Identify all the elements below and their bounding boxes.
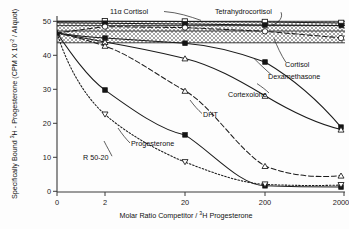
- label-r-50-20: R 50-20: [83, 153, 109, 162]
- marker-filled-square: [263, 23, 268, 28]
- x-tick-200: 200: [259, 198, 271, 207]
- y-tick-labels: 50 40 30 20 10 0: [43, 17, 51, 196]
- x-tick-labels: 0 2 20 200 2000: [55, 198, 349, 207]
- series-r-50-20: [57, 33, 344, 188]
- y-tick-0: 0: [47, 187, 51, 196]
- y-tick-30: 30: [43, 85, 51, 94]
- series-progesterone: [57, 33, 343, 189]
- y-axis-title-b: H - Progesterone (CPM X 10: [10, 44, 19, 136]
- svg-text:Specifically Bound 3H - Proges: Specifically Bound 3H - Progesterone (CP…: [9, 9, 19, 199]
- marker-open-triangle: [182, 88, 188, 93]
- marker-filled-square: [339, 23, 344, 28]
- x-axis-title: Molar Ratio Competitor / 3H Progesterone: [119, 210, 252, 220]
- marker-filled-square: [183, 133, 188, 138]
- y-tick-20: 20: [43, 119, 51, 128]
- x-tick-20: 20: [181, 198, 189, 207]
- marker-open-down-triangle: [182, 160, 188, 165]
- label-dht: DHT: [203, 110, 218, 119]
- svg-text:Molar Ratio Competitor / 3H Pr: Molar Ratio Competitor / 3H Progesterone: [119, 210, 252, 220]
- label-progesterone: Progesterone: [131, 139, 174, 148]
- label-tetrahydrocortisol: Tetrahydrocortisol: [215, 7, 272, 16]
- y-tick-10: 10: [43, 153, 51, 162]
- x-tick-2: 2: [103, 198, 107, 207]
- y-tick-40: 40: [43, 51, 51, 60]
- marker-filled-square: [103, 88, 108, 93]
- marker-filled-square: [263, 60, 268, 65]
- marker-open-circle: [262, 29, 267, 34]
- competitive-binding-line-chart: 50 40 30 20 10 0 0 2 20 200 2000 Molar R…: [0, 0, 349, 229]
- chart-figure: 50 40 30 20 10 0 0 2 20 200 2000 Molar R…: [0, 0, 349, 229]
- label-cortisol: Cortisol: [285, 60, 310, 69]
- x-axis-title-pre: Molar Ratio Competitor /: [119, 211, 199, 220]
- label-dexamethasone: Dexamethasone: [268, 72, 320, 81]
- label-cortexolone: Cortexolone: [228, 90, 267, 99]
- marker-open-circle: [102, 24, 107, 29]
- marker-open-circle: [338, 35, 343, 40]
- y-axis-title: Specifically Bound 3H - Progesterone (CP…: [9, 9, 19, 199]
- series-cortexolone: [57, 33, 344, 132]
- y-axis-title-a: Specifically Bound: [10, 138, 19, 199]
- x-axis-title-post: H Progesterone: [202, 211, 252, 220]
- marker-open-triangle: [262, 163, 268, 168]
- y-tick-50: 50: [43, 17, 51, 26]
- x-tick-0: 0: [55, 198, 59, 207]
- marker-filled-square: [183, 41, 188, 46]
- marker-open-circle: [182, 25, 187, 30]
- x-tick-2000: 2000: [333, 198, 349, 207]
- y-axis-title-c: / Aliquot): [10, 9, 19, 39]
- label-11a-cortisol: 11α Cortisol: [110, 7, 148, 16]
